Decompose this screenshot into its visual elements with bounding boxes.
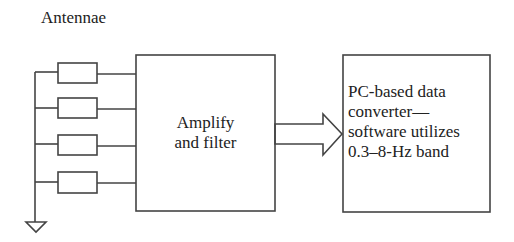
converter-line-4: 0.3–8-Hz band [348,142,460,162]
amplify-filter-text: Amplify and filter [136,113,275,153]
antenna-element-4 [35,172,136,193]
antenna-element-1 [35,63,136,83]
ground-icon [26,222,46,232]
antenna-element-2 [35,98,136,118]
amplify-line-1: Amplify [136,113,275,133]
signal-arrow-icon [275,114,342,155]
antenna-element-3 [35,135,136,155]
amplify-line-2: and filter [136,133,275,153]
converter-text: PC-based data converter— software utiliz… [348,82,460,162]
converter-line-3: software utilizes [348,122,460,142]
converter-line-1: PC-based data [348,82,460,102]
antennae-label: Antennae [41,8,106,28]
converter-line-2: converter— [348,102,460,122]
